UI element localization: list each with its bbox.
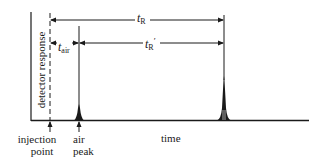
y-axis-label: detector response (35, 32, 47, 109)
injection-point-label: injection point (14, 133, 60, 157)
tair-label: tair (58, 41, 70, 57)
analyte-peak (217, 76, 231, 121)
tR-prime-label: tR′ (145, 35, 156, 54)
tR-label: tR (137, 12, 146, 28)
air-peak (74, 104, 84, 121)
air-peak-label: air peak (73, 133, 94, 157)
x-axis-label: time (161, 132, 181, 144)
